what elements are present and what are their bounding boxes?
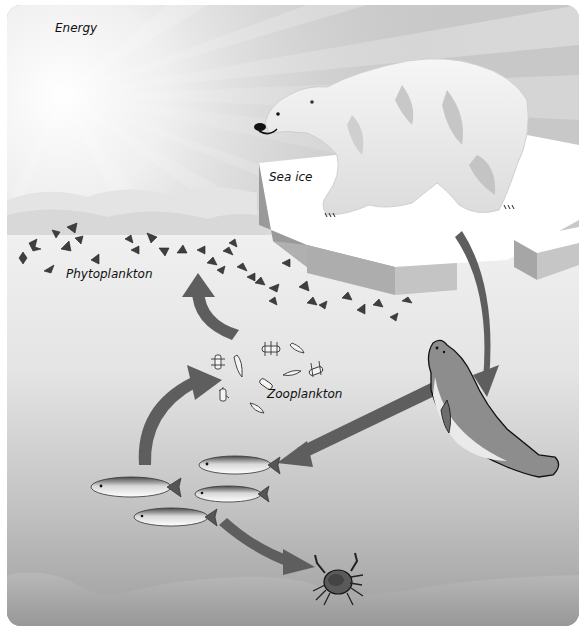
phytoplankton-label: Phytoplankton	[66, 267, 153, 281]
food-web-panel: Energy Sea ice Phytoplankton Zooplankton	[7, 5, 579, 626]
energy-label: Energy	[55, 21, 97, 35]
bear-nose	[254, 123, 266, 131]
food-web-scene	[7, 5, 579, 626]
sea-ice-label: Sea ice	[269, 170, 312, 184]
zooplankton-label: Zooplankton	[267, 387, 342, 401]
